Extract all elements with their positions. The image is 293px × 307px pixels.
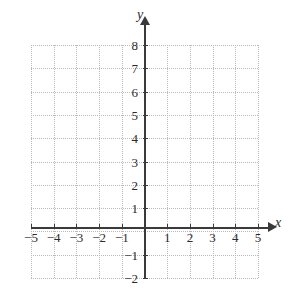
y-tick bbox=[143, 138, 148, 139]
y-tick bbox=[143, 45, 148, 46]
x-tick-label: 4 bbox=[226, 231, 244, 244]
y-tick-label: 7 bbox=[120, 62, 138, 75]
x-tick bbox=[54, 224, 55, 229]
x-tick-label: 3 bbox=[204, 231, 222, 244]
x-tick-label: −1 bbox=[113, 231, 131, 244]
x-tick bbox=[213, 224, 214, 229]
x-tick bbox=[167, 224, 168, 229]
x-tick bbox=[190, 224, 191, 229]
y-tick-label: −2 bbox=[120, 272, 138, 285]
x-axis-label: x bbox=[275, 216, 281, 230]
y-tick bbox=[143, 278, 148, 279]
x-tick-label: −3 bbox=[67, 231, 85, 244]
y-tick-label: 5 bbox=[120, 109, 138, 122]
y-tick bbox=[143, 255, 148, 256]
x-tick-label: −4 bbox=[45, 231, 63, 244]
y-tick bbox=[143, 185, 148, 186]
y-tick-label: 2 bbox=[120, 179, 138, 192]
x-axis-line bbox=[31, 227, 270, 229]
x-tick bbox=[31, 224, 32, 229]
x-tick bbox=[76, 224, 77, 229]
x-tick-label: 1 bbox=[158, 231, 176, 244]
y-axis-label: y bbox=[137, 8, 143, 22]
x-tick bbox=[122, 224, 123, 229]
coordinate-plane-figure: −5−4−3−2−112345−2−112345678 x y bbox=[0, 0, 293, 307]
x-tick-label: −5 bbox=[22, 231, 40, 244]
y-tick-label: 3 bbox=[120, 156, 138, 169]
y-tick bbox=[143, 92, 148, 93]
x-tick-label: 5 bbox=[249, 231, 267, 244]
x-tick-label: −2 bbox=[90, 231, 108, 244]
y-tick bbox=[143, 162, 148, 163]
y-tick-label: 1 bbox=[120, 202, 138, 215]
x-tick bbox=[258, 224, 259, 229]
x-tick-label: 2 bbox=[181, 231, 199, 244]
y-axis-line bbox=[144, 24, 146, 279]
y-tick bbox=[143, 68, 148, 69]
y-tick bbox=[143, 115, 148, 116]
x-tick bbox=[99, 224, 100, 229]
y-tick-label: 4 bbox=[120, 132, 138, 145]
y-tick-label: 6 bbox=[120, 86, 138, 99]
y-tick-label: −1 bbox=[120, 249, 138, 262]
y-tick bbox=[143, 208, 148, 209]
x-tick bbox=[235, 224, 236, 229]
plot-area: −5−4−3−2−112345−2−112345678 x y bbox=[0, 0, 293, 307]
y-tick-label: 8 bbox=[120, 39, 138, 52]
